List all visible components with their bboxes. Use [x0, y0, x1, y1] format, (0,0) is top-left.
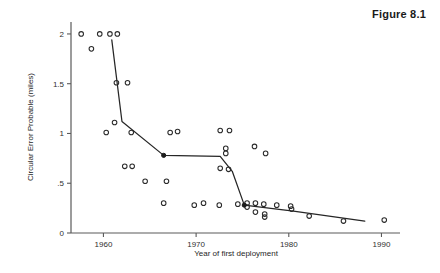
data-point-marker	[261, 202, 266, 207]
x-axis-ticks: 1960197019801990	[95, 233, 391, 249]
data-point-marker	[253, 210, 258, 215]
trend-line-node	[162, 153, 166, 157]
trend-line-node	[242, 203, 246, 207]
data-point-marker	[164, 179, 169, 184]
x-tick-label: 1990	[373, 240, 391, 249]
x-tick-label: 1980	[280, 240, 298, 249]
data-point-marker	[218, 166, 223, 171]
data-point-marker	[307, 214, 312, 219]
data-point-marker	[252, 144, 257, 149]
y-tick-label: 2	[60, 30, 65, 39]
data-point-marker	[125, 80, 130, 85]
data-point-marker	[288, 204, 293, 209]
data-point-marker	[253, 201, 258, 206]
data-point-marker	[104, 130, 109, 135]
data-point-marker	[168, 130, 173, 135]
axes	[71, 22, 400, 233]
y-tick-label: 1.5	[53, 80, 65, 89]
data-point-marker	[341, 219, 346, 224]
x-tick-label: 1960	[95, 240, 113, 249]
data-point-marker	[236, 202, 241, 207]
data-point-marker	[382, 218, 387, 223]
data-point-marker	[122, 164, 127, 169]
data-point-marker	[192, 203, 197, 208]
data-point-marker	[97, 32, 102, 37]
data-point-marker	[227, 128, 232, 133]
x-axis-title: Year of first deployment	[194, 249, 279, 258]
data-point-marker	[274, 203, 279, 208]
y-tick-label: 0	[60, 229, 65, 238]
figure-container: Figure 8.1 0.511.52 1960197019801990 Yea…	[0, 0, 440, 273]
data-point-marker	[161, 201, 166, 206]
data-point-marker	[223, 146, 228, 151]
y-tick-label: 1	[60, 129, 65, 138]
data-point-marker	[130, 164, 135, 169]
data-point-marker	[201, 201, 206, 206]
x-tick-label: 1970	[187, 240, 205, 249]
trend-line-group	[112, 40, 365, 221]
data-point-marker	[175, 129, 180, 134]
data-point-marker	[89, 47, 94, 52]
data-points	[79, 32, 387, 224]
y-axis-title: Circular Error Probable (miles)	[26, 73, 35, 181]
chart-plot-area: 0.511.52 1960197019801990 Year of first …	[0, 0, 440, 273]
data-point-marker	[218, 128, 223, 133]
data-point-marker	[79, 32, 84, 37]
y-axis-ticks: 0.511.52	[53, 30, 71, 238]
data-point-marker	[108, 32, 113, 37]
data-point-marker	[143, 179, 148, 184]
data-point-marker	[217, 203, 222, 208]
data-point-marker	[112, 120, 117, 125]
data-point-marker	[262, 215, 267, 220]
data-point-marker	[223, 151, 228, 156]
data-point-marker	[263, 151, 268, 156]
y-tick-label: .5	[57, 179, 64, 188]
data-point-marker	[115, 32, 120, 37]
trend-line	[112, 40, 365, 221]
